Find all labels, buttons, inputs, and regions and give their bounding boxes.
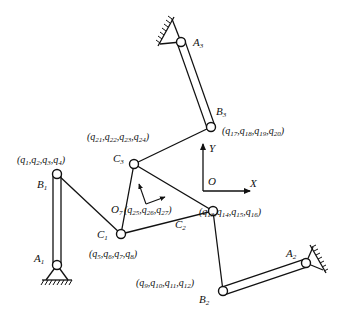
- label-c1: C1: [97, 228, 108, 242]
- label-x-axis: X: [249, 177, 258, 189]
- joint-b3: [207, 123, 216, 132]
- diagram-svg: A1 B1 C1 C2 C3 B3 A3 B2 A2 O7 O X Y (q1,…: [0, 0, 345, 319]
- mechanism-diagram: A1 B1 C1 C2 C3 B3 A3 B2 A2 O7 O X Y (q1,…: [0, 0, 345, 319]
- coords-b2: (q9,q10,q11,q12): [136, 277, 195, 290]
- joint-c1: [117, 230, 126, 239]
- label-b3: B3: [216, 105, 227, 119]
- moving-platform: [121, 164, 213, 234]
- coords-c3: (q21,q22,q23,q24): [87, 131, 150, 144]
- link-a3-b3: [177, 40, 214, 128]
- label-c2: C2: [175, 218, 186, 232]
- label-y-axis: Y: [209, 142, 217, 154]
- joint-a3: [177, 38, 186, 47]
- coords-o7: (q25,q26,q27): [124, 204, 172, 217]
- label-c3: C3: [113, 152, 124, 166]
- coords-b3: (q17,q18,q19,q20): [222, 125, 285, 138]
- link-a2-b2: [222, 259, 308, 295]
- coords-b1: (q1,q2,q3,q4): [17, 154, 66, 167]
- link-b2-c2: [213, 211, 223, 291]
- label-origin: O: [208, 175, 216, 187]
- label-o7: O7: [111, 203, 123, 217]
- joint-a2: [302, 259, 311, 268]
- joint-a1: [53, 261, 62, 270]
- label-a1: A1: [33, 252, 44, 266]
- label-a3: A3: [192, 36, 204, 50]
- joint-b2: [219, 287, 228, 296]
- label-a2: A2: [285, 247, 297, 261]
- platform-frame: [139, 184, 165, 204]
- joint-c3: [130, 160, 139, 169]
- label-b2: B2: [199, 293, 210, 307]
- joint-b1: [53, 170, 62, 179]
- coords-c1: (q5,q6,q7,q8): [89, 248, 138, 261]
- label-b1: B1: [37, 178, 47, 192]
- link-a1-b1: [53, 174, 61, 265]
